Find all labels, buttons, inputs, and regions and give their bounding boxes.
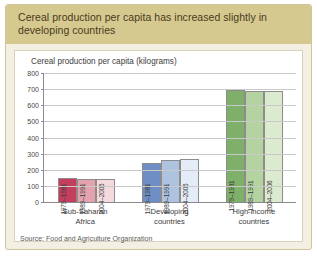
figure-banner: Cereal production per capita has increas… [6, 5, 311, 44]
gridline [44, 170, 296, 171]
bar: 1989–1991 [77, 179, 96, 202]
category-label: High-incomecountries [212, 204, 296, 226]
y-axis-labels: 0100200300400500600700800 [15, 73, 41, 202]
y-axis-tick [41, 105, 44, 106]
plot-area: 1979–19811989–19912004–20061979–19811989… [43, 73, 296, 203]
y-axis-tick [41, 138, 44, 139]
category-label-line: Developing [127, 207, 211, 217]
gridline [44, 121, 296, 122]
figure-card: Cereal production per capita has increas… [5, 4, 312, 250]
gridline [44, 73, 296, 74]
figure-container: Cereal production per capita has increas… [0, 0, 317, 256]
category-label-line: countries [212, 217, 296, 227]
y-axis-tick-label: 500 [27, 118, 39, 125]
category-label-line: Sub-Saharan [43, 207, 127, 217]
y-axis-tick-label: 100 [27, 182, 39, 189]
chart-axis-title: Cereal production per capita (kilograms) [31, 57, 177, 66]
bar: 1979–1981 [142, 163, 161, 203]
category-label: Sub-SaharanAfrica [43, 204, 127, 226]
y-axis-tick-label: 800 [27, 70, 39, 77]
source-note: Source: Food and Agriculture Organizatio… [20, 235, 152, 242]
y-axis-tick [41, 186, 44, 187]
bar: 2004–2006 [180, 159, 199, 202]
y-axis-tick [41, 202, 44, 203]
y-axis-tick-label: 600 [27, 102, 39, 109]
y-axis-tick-label: 400 [27, 134, 39, 141]
y-axis-tick [41, 121, 44, 122]
y-axis-tick [41, 73, 44, 74]
x-axis-category-labels: Sub-SaharanAfricaDevelopingcountriesHigh… [43, 204, 296, 226]
category-label-line: Africa [43, 217, 127, 227]
y-axis-tick [41, 89, 44, 90]
y-axis-tick-label: 700 [27, 86, 39, 93]
figure-headline: Cereal production per capita has increas… [18, 11, 301, 37]
category-label-line: countries [127, 217, 211, 227]
category-label: Developingcountries [127, 204, 211, 226]
chart-panel: Cereal production per capita (kilograms)… [14, 50, 303, 242]
y-axis-tick-label: 200 [27, 166, 39, 173]
y-axis-tick [41, 170, 44, 171]
gridline [44, 89, 296, 90]
gridline [44, 105, 296, 106]
y-axis-tick-label: 300 [27, 150, 39, 157]
plot-wrapper: 0100200300400500600700800 1979–19811989–… [15, 73, 296, 241]
y-axis-tick-label: 0 [35, 199, 39, 206]
bar: 1979–1981 [58, 178, 77, 202]
gridline [44, 154, 296, 155]
y-axis-tick [41, 154, 44, 155]
gridline [44, 138, 296, 139]
category-label-line: High-income [212, 207, 296, 217]
bar: 1989–1991 [161, 160, 180, 202]
gridline [44, 186, 296, 187]
bar: 2004–2006 [96, 179, 115, 202]
